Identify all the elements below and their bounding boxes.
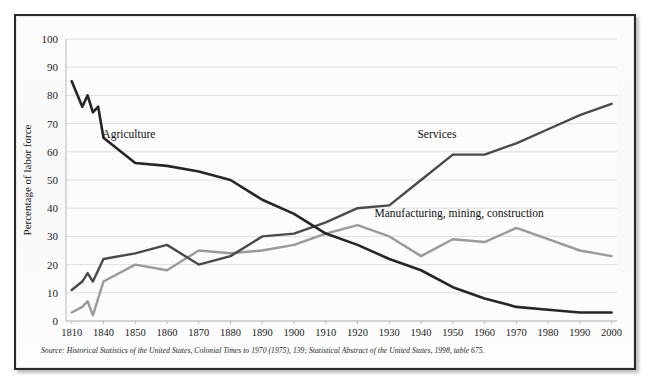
y-tick-label: 0 <box>53 315 59 327</box>
series-label-services: Services <box>417 128 456 140</box>
x-tick-label: 1860 <box>156 327 177 338</box>
x-tick-label: 1930 <box>379 327 400 338</box>
series-label-manufacturing-mining-construction: Manufacturing, mining, construction <box>375 207 545 220</box>
x-tick-label: 1890 <box>252 327 273 338</box>
source-note: Source: Historical Statistics of the Uni… <box>41 346 621 355</box>
y-tick-label: 40 <box>47 202 59 214</box>
x-tick-label: 1870 <box>188 327 209 338</box>
x-tick-label: 1950 <box>442 327 463 338</box>
x-tick-label: 1980 <box>538 327 559 338</box>
y-tick-label: 50 <box>47 174 59 186</box>
x-tick-label: 2000 <box>601 327 622 338</box>
figure-root: 0102030405060708090100 18101840185018601… <box>0 0 656 382</box>
x-tick-label: 1810 <box>61 327 82 338</box>
x-tick-label: 1970 <box>506 327 527 338</box>
x-tick-label: 1840 <box>93 327 114 338</box>
x-tick-label: 1990 <box>569 327 590 338</box>
figure-outer-frame: 0102030405060708090100 18101840185018601… <box>14 14 636 370</box>
y-tick-label: 100 <box>42 33 59 45</box>
series-label-agriculture: Agriculture <box>102 128 155 141</box>
y-tick-label: 80 <box>47 89 59 101</box>
y-tick-label: 90 <box>47 61 59 73</box>
x-tick-label: 1940 <box>411 327 432 338</box>
y-axis: 0102030405060708090100 <box>42 33 59 327</box>
y-tick-label: 20 <box>47 259 59 271</box>
figure-inner-panel: 0102030405060708090100 18101840185018601… <box>16 16 634 368</box>
x-tick-label: 1910 <box>315 327 336 338</box>
y-tick-label: 10 <box>47 287 59 299</box>
x-axis: 1810184018501860187018801890190019101920… <box>61 321 622 338</box>
x-tick-label: 1900 <box>284 327 305 338</box>
x-tick-label: 1920 <box>347 327 368 338</box>
x-tick-label: 1960 <box>474 327 495 338</box>
x-tick-label: 1850 <box>125 327 146 338</box>
y-tick-label: 70 <box>47 118 59 130</box>
y-tick-label: 60 <box>47 146 59 158</box>
y-tick-label: 30 <box>47 230 59 242</box>
x-tick-label: 1880 <box>220 327 241 338</box>
line-chart: 0102030405060708090100 18101840185018601… <box>17 17 635 369</box>
y-axis-title: Percentage of labor force <box>21 124 33 235</box>
